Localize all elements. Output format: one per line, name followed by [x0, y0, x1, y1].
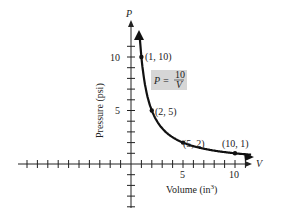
svg-text:P =: P =: [153, 75, 169, 86]
x-tick-label-5: 5: [180, 169, 185, 180]
equation-box: P = 10 V: [151, 69, 187, 90]
v-axis-label: V: [256, 158, 264, 169]
data-point: [150, 108, 154, 112]
point-label-1-10: (1, 10): [145, 51, 172, 63]
axes: [18, 25, 248, 208]
data-point: [233, 151, 237, 155]
point-label-5-2: (5, 2): [183, 138, 205, 150]
x-axis-title: Volume (in3): [166, 183, 217, 196]
data-point: [139, 55, 143, 59]
x-tick-label-10: 10: [229, 169, 239, 180]
curve-top-arrow-icon: [134, 30, 144, 40]
p-axis-label: P: [125, 8, 132, 19]
p-axis-arrow-icon: [128, 20, 134, 27]
y-axis-title: Pressure (psi): [94, 83, 106, 138]
y-tick-label-5: 5: [115, 105, 120, 116]
point-label-10-1: (10, 1): [222, 138, 249, 150]
v-axis-arrow-icon: [245, 161, 252, 167]
pressure-volume-chart: P V 5 10 5 10 Volume (in3) Pressure (psi…: [0, 0, 285, 221]
y-tick-label-10: 10: [110, 52, 120, 63]
point-label-2-5: (2, 5): [155, 106, 177, 118]
